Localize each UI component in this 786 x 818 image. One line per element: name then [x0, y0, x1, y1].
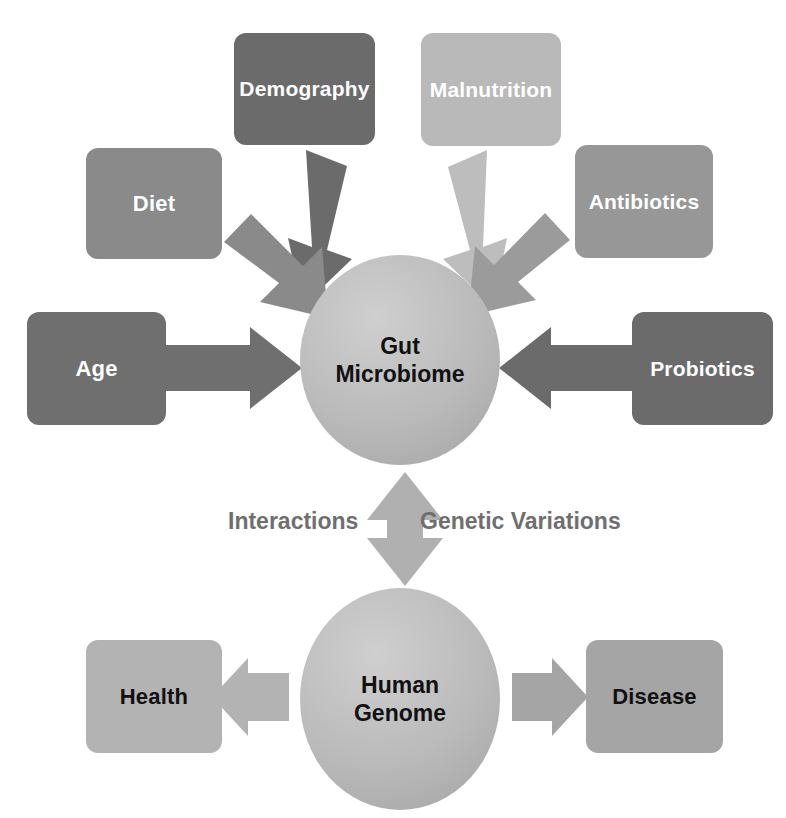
node-human-genome-line1: Human — [361, 672, 439, 698]
node-health-label: Health — [120, 684, 188, 710]
node-demography-label: Demography — [239, 77, 369, 101]
edge-label-genetic-variations: Genetic Variations — [420, 508, 621, 535]
node-diet[interactable]: Diet — [86, 148, 222, 259]
node-probiotics-label: Probiotics — [650, 357, 755, 381]
node-malnutrition[interactable]: Malnutrition — [421, 33, 561, 146]
node-antibiotics[interactable]: Antibiotics — [575, 145, 713, 258]
node-health[interactable]: Health — [86, 640, 222, 753]
node-gut-microbiome[interactable]: Gut Microbiome — [300, 255, 500, 465]
node-malnutrition-label: Malnutrition — [430, 78, 553, 102]
node-human-genome-line2: Genome — [354, 700, 446, 726]
node-demography[interactable]: Demography — [234, 33, 375, 145]
arrow-genome-to-health — [212, 658, 289, 736]
node-disease-label: Disease — [612, 684, 697, 710]
arrow-age-to-gut — [165, 327, 302, 409]
node-human-genome[interactable]: Human Genome — [300, 588, 500, 810]
node-gut-microbiome-line2: Microbiome — [335, 361, 464, 387]
arrow-genome-to-disease — [512, 658, 588, 736]
node-diet-label: Diet — [133, 191, 175, 217]
node-disease[interactable]: Disease — [586, 640, 723, 753]
node-probiotics[interactable]: Probiotics — [632, 312, 773, 425]
node-gut-microbiome-line1: Gut — [380, 333, 420, 359]
node-antibiotics-label: Antibiotics — [589, 190, 700, 214]
node-age[interactable]: Age — [27, 312, 166, 425]
edge-label-interactions: Interactions — [228, 508, 358, 535]
node-age-label: Age — [75, 356, 117, 382]
diagram-canvas: Gut Microbiome Human Genome Demography M… — [0, 0, 786, 818]
arrow-probiotics-to-gut — [499, 327, 634, 409]
node-human-genome-label: Human Genome — [354, 671, 446, 727]
node-gut-microbiome-label: Gut Microbiome — [335, 332, 464, 388]
